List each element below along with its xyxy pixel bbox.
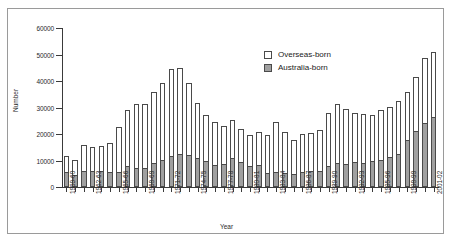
- x-axis-tick: [250, 188, 251, 192]
- bar-group[interactable]: [405, 28, 411, 187]
- x-axis-tick: [145, 188, 146, 192]
- y-axis-tick-label: 40000: [36, 78, 54, 85]
- legend-item-australia-born: Australia-born: [264, 61, 331, 74]
- bar-segment-australia-born[interactable]: [291, 174, 297, 188]
- y-axis-tick-label: 10000: [36, 157, 54, 164]
- x-axis-tick: [66, 188, 67, 192]
- x-axis-tick: [355, 188, 356, 192]
- x-axis-tick: [93, 188, 94, 192]
- bar-group[interactable]: [160, 28, 166, 187]
- x-axis-tick: [390, 188, 391, 192]
- bar-group[interactable]: [335, 28, 341, 187]
- x-axis-tick: [233, 188, 234, 192]
- bar-segment-australia-born[interactable]: [212, 165, 218, 187]
- bar-group[interactable]: [177, 28, 183, 187]
- bar-segment-australia-born[interactable]: [116, 172, 122, 187]
- bar-segment-australia-born[interactable]: [238, 162, 244, 187]
- x-axis-tick: [198, 188, 199, 192]
- bar-group[interactable]: [151, 28, 157, 187]
- x-axis-tick: [180, 188, 181, 192]
- x-axis-tick: [337, 188, 338, 192]
- legend-label-overseas-born: Overseas-born: [278, 50, 331, 59]
- y-axis-tick-label: 50000: [36, 51, 54, 58]
- x-axis-tick: [294, 188, 295, 192]
- bar-group[interactable]: [422, 28, 428, 187]
- x-axis-tick: [259, 188, 260, 192]
- bar-segment-australia-born[interactable]: [81, 171, 87, 187]
- bar-group[interactable]: [396, 28, 402, 187]
- y-axis-tick-label: 60000: [36, 25, 54, 32]
- bar-segment-australia-born[interactable]: [265, 173, 271, 187]
- legend-label-australia-born: Australia-born: [278, 63, 328, 72]
- bar-group[interactable]: [361, 28, 367, 187]
- y-axis-tick-labels: 0100002000030000400005000060000: [8, 9, 54, 235]
- x-axis-tick: [75, 188, 76, 192]
- bar-group[interactable]: [413, 28, 419, 187]
- y-axis-tick: [56, 134, 62, 135]
- y-axis-tick: [56, 187, 62, 188]
- x-axis-tick: [241, 188, 242, 192]
- bar-group[interactable]: [125, 28, 131, 187]
- bar-group[interactable]: [352, 28, 358, 187]
- bar-group[interactable]: [169, 28, 175, 187]
- x-axis-tick: [372, 188, 373, 192]
- bar-segment-australia-born[interactable]: [352, 162, 358, 187]
- x-axis-tick: [171, 188, 172, 192]
- bar-group[interactable]: [378, 28, 384, 187]
- bar-group[interactable]: [230, 28, 236, 187]
- bar-group[interactable]: [247, 28, 253, 187]
- bar-segment-australia-born[interactable]: [247, 166, 253, 187]
- x-axis-tick: [407, 188, 408, 192]
- y-axis-tick-label: 20000: [36, 131, 54, 138]
- bar-group[interactable]: [387, 28, 393, 187]
- bar-segment-australia-born[interactable]: [422, 123, 428, 187]
- bar-segment-australia-born[interactable]: [343, 164, 349, 187]
- x-axis-tick: [84, 188, 85, 192]
- bar-group[interactable]: [64, 28, 70, 187]
- x-axis-tick: [215, 188, 216, 192]
- x-axis-tick: [110, 188, 111, 192]
- bar-group[interactable]: [99, 28, 105, 187]
- bar-group[interactable]: [81, 28, 87, 187]
- bar-segment-australia-born[interactable]: [396, 154, 402, 187]
- bar-group[interactable]: [134, 28, 140, 187]
- chart-legend: Overseas-born Australia-born: [264, 48, 331, 74]
- bar-segment-australia-born[interactable]: [221, 164, 227, 187]
- bar-group[interactable]: [195, 28, 201, 187]
- bar-group[interactable]: [370, 28, 376, 187]
- y-axis-title: Number: [12, 89, 19, 112]
- bar-group[interactable]: [238, 28, 244, 187]
- x-axis-tick: [434, 188, 435, 192]
- x-axis-tick: [206, 188, 207, 192]
- bar-group[interactable]: [221, 28, 227, 187]
- bar-segment-australia-born[interactable]: [317, 171, 323, 187]
- x-axis-tick: [267, 188, 268, 192]
- x-axis-tick: [329, 188, 330, 192]
- bar-segment-australia-born[interactable]: [160, 160, 166, 187]
- bar-group[interactable]: [107, 28, 113, 187]
- bar-group[interactable]: [343, 28, 349, 187]
- chart-figure-frame: 0100002000030000400005000060000 Number Y…: [7, 8, 444, 234]
- bar-group[interactable]: [431, 28, 437, 187]
- bar-group[interactable]: [186, 28, 192, 187]
- y-axis-tick: [56, 108, 62, 109]
- x-axis-tick: [302, 188, 303, 192]
- legend-swatch-australia-born-icon: [264, 64, 272, 72]
- bar-group[interactable]: [116, 28, 122, 187]
- y-axis-tick-label: 0: [50, 184, 54, 191]
- bar-group[interactable]: [212, 28, 218, 187]
- bar-segment-australia-born[interactable]: [370, 161, 376, 187]
- x-axis-tick-label: 2001-02: [436, 171, 443, 194]
- bar-group[interactable]: [203, 28, 209, 187]
- bar-group[interactable]: [72, 28, 78, 187]
- x-axis-tick: [416, 188, 417, 192]
- y-axis-tick: [56, 161, 62, 162]
- bar-segment-australia-born[interactable]: [186, 155, 192, 187]
- legend-item-overseas-born: Overseas-born: [264, 48, 331, 61]
- bar-group[interactable]: [90, 28, 96, 187]
- bar-group[interactable]: [142, 28, 148, 187]
- bar-segment-australia-born[interactable]: [107, 172, 113, 187]
- x-axis-tick: [399, 188, 400, 192]
- bar-group[interactable]: [256, 28, 262, 187]
- bar-segment-australia-born[interactable]: [134, 168, 140, 187]
